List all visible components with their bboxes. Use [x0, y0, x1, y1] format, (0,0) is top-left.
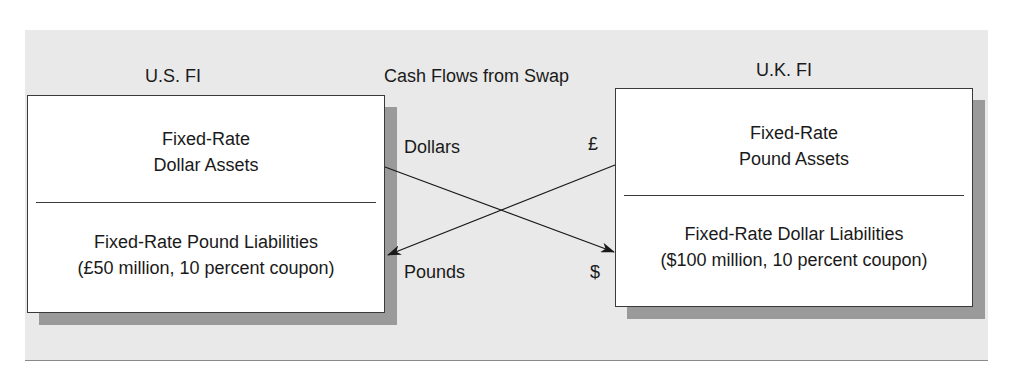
us-fi-label: U.S. FI [145, 66, 201, 86]
uk-fi-assets-line1: Fixed-Rate [616, 120, 972, 146]
uk-fi-balance-sheet: Fixed-Rate Pound Assets Fixed-Rate Dolla… [615, 88, 973, 307]
us-fi-divider [36, 202, 376, 203]
uk-fi-label: U.K. FI [756, 60, 812, 80]
uk-fi-liabilities-line2: ($100 million, 10 percent coupon) [616, 247, 972, 273]
us-fi-liabilities-line1: Fixed-Rate Pound Liabilities [28, 229, 384, 255]
us-fi-assets-line2: Dollar Assets [28, 152, 384, 178]
us-fi-balance-sheet: Fixed-Rate Dollar Assets Fixed-Rate Poun… [27, 95, 385, 313]
us-fi-assets-line1: Fixed-Rate [28, 126, 384, 152]
us-fi-liabilities: Fixed-Rate Pound Liabilities (£50 millio… [28, 229, 384, 281]
uk-fi-assets-line2: Pound Assets [616, 146, 972, 172]
dollars-flow-label: Dollars [404, 137, 460, 157]
uk-fi-liabilities: Fixed-Rate Dollar Liabilities ($100 mill… [616, 221, 972, 273]
us-fi-assets: Fixed-Rate Dollar Assets [28, 126, 384, 178]
dollar-symbol-label: $ [590, 262, 600, 282]
pound-symbol-label: £ [588, 134, 598, 154]
us-fi-liabilities-line2: (£50 million, 10 percent coupon) [28, 255, 384, 281]
pounds-flow-label: Pounds [404, 262, 465, 282]
uk-fi-liabilities-line1: Fixed-Rate Dollar Liabilities [616, 221, 972, 247]
diagram-title: Cash Flows from Swap [384, 66, 569, 86]
uk-fi-divider [624, 195, 964, 196]
uk-fi-assets: Fixed-Rate Pound Assets [616, 120, 972, 172]
